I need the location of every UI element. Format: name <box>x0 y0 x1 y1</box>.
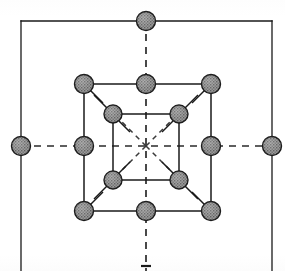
node-medium-bottom-mid[interactable] <box>137 202 156 221</box>
node-outer-right[interactable] <box>263 137 282 156</box>
node-medium-top-right[interactable] <box>202 75 221 94</box>
node-medium-bottom-left[interactable] <box>75 202 94 221</box>
node-outer-top[interactable] <box>137 12 156 31</box>
node-medium-mid-left[interactable] <box>75 137 94 156</box>
node-medium-top-mid[interactable] <box>137 75 156 94</box>
node-inner-bottom-right[interactable] <box>170 171 188 189</box>
node-medium-bottom-right[interactable] <box>202 202 221 221</box>
node-medium-mid-right[interactable] <box>202 137 221 156</box>
lattice-figure <box>0 0 285 271</box>
node-inner-top-right[interactable] <box>170 105 188 123</box>
node-outer-left[interactable] <box>12 137 31 156</box>
lattice-diagram-canvas <box>0 0 285 271</box>
figure-background <box>0 0 285 271</box>
node-inner-top-left[interactable] <box>104 105 122 123</box>
node-inner-bottom-left[interactable] <box>104 171 122 189</box>
node-medium-top-left[interactable] <box>75 75 94 94</box>
